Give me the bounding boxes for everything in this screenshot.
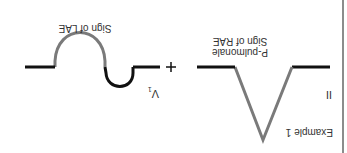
lead-label-ii: II — [326, 88, 332, 100]
plus-icon — [166, 62, 176, 72]
lead-v1-sub: 1 — [148, 86, 152, 93]
initial-positive-component — [55, 33, 105, 68]
example-title: Example 1 — [286, 127, 333, 138]
caption-line-2: Sign of RAE — [200, 36, 280, 47]
ecg-diagram: Example 1 II P-pulmonale Sign of RAE V1 … — [0, 0, 347, 153]
p-pulmonale-caption: P-pulmonale Sign of RAE — [200, 36, 280, 57]
lae-caption: Sign of LAE — [45, 23, 125, 34]
lead-v1-waveform — [25, 33, 160, 87]
caption-line-1: P-pulmonale — [200, 47, 280, 58]
terminal-negative-component — [105, 67, 133, 87]
p-pulmonale-wave — [235, 67, 292, 140]
lead-label-v1: V1 — [148, 85, 159, 99]
lead-v1-main: V — [152, 88, 159, 100]
